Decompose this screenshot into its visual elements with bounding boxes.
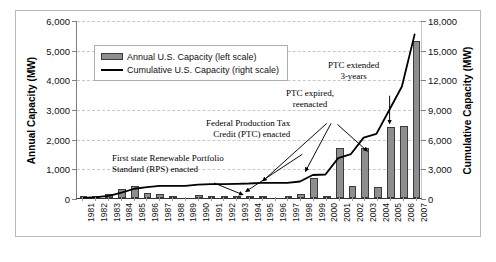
x-axis-tick xyxy=(326,197,327,201)
left-axis-title-label: Annual Capacity (MW) xyxy=(27,56,38,164)
right-axis-tick-label: 12,000 xyxy=(428,75,457,86)
right-axis-tick xyxy=(421,199,426,200)
right-axis-tick xyxy=(421,140,426,141)
annotation-ptc-extended-line1: PTC extended xyxy=(328,60,379,71)
annotation-ptc-enacted: Federal Production Tax Credit (PTC) enac… xyxy=(206,118,290,140)
right-axis-tick-label: 6,000 xyxy=(428,134,452,145)
annotation-ptc-expired-line1: PTC expired, xyxy=(286,88,334,99)
right-axis-title-label: Cumulative Capacity (MW) xyxy=(463,46,474,174)
x-axis-label-1993: 1993 xyxy=(240,203,250,222)
x-axis-tick xyxy=(275,197,276,201)
x-axis-label-2002: 2002 xyxy=(355,203,365,222)
x-axis-tick xyxy=(223,197,224,201)
legend-item-cumulative: Cumulative U.S. Capacity (right scale) xyxy=(101,63,279,76)
x-axis-tick xyxy=(364,197,365,201)
x-axis-tick xyxy=(249,197,250,201)
x-axis-tick xyxy=(352,197,353,201)
left-axis-tick-label: 2,000 xyxy=(46,134,70,145)
legend-label-annual: Annual U.S. Capacity (left scale) xyxy=(127,52,257,62)
x-axis-tick xyxy=(172,197,173,201)
annotation-ptc-enacted-line2: Credit (PTC) enacted xyxy=(206,129,290,140)
x-axis-label-1984: 1984 xyxy=(124,203,134,222)
x-axis-label-2003: 2003 xyxy=(368,203,378,222)
right-axis-tick-label: 18,000 xyxy=(428,16,457,27)
annotation-ptc-extended: PTC extended 3-years xyxy=(328,60,379,82)
chart-frame: Annual Capacity (MW) Cumulative Capacity… xyxy=(15,10,481,237)
x-axis-label-1995: 1995 xyxy=(265,203,275,222)
x-axis-label-2007: 2007 xyxy=(419,203,429,222)
x-axis-tick xyxy=(390,197,391,201)
x-axis-tick xyxy=(185,197,186,201)
x-axis-label-1990: 1990 xyxy=(201,203,211,222)
x-axis-tick xyxy=(211,197,212,201)
x-axis-label-1986: 1986 xyxy=(150,203,160,222)
x-axis-label-2006: 2006 xyxy=(406,203,416,222)
annotation-rps-line2: Standard (RPS) enacted xyxy=(112,164,224,175)
bar-swatch-icon xyxy=(101,53,123,60)
x-axis-tick xyxy=(121,197,122,201)
x-axis-tick xyxy=(146,197,147,201)
x-axis-label-2005: 2005 xyxy=(393,203,403,222)
x-axis-tick xyxy=(300,197,301,201)
x-axis-tick xyxy=(82,197,83,201)
annotation-ptc-enacted-line1: Federal Production Tax xyxy=(206,118,290,129)
x-axis-label-1997: 1997 xyxy=(291,203,301,222)
x-axis-tick xyxy=(262,197,263,201)
x-axis-tick-labels: 1981198219831984198519861987198819891990… xyxy=(76,201,422,247)
annotation-rps-line1: First state Renewable Portfolio xyxy=(112,153,224,164)
x-axis-tick xyxy=(313,197,314,201)
x-axis-tick xyxy=(287,197,288,201)
right-axis-tick-label: 3,000 xyxy=(428,164,452,175)
left-axis-tick-label: 6,000 xyxy=(46,16,70,27)
x-axis-label-1988: 1988 xyxy=(176,203,186,222)
right-axis-tick xyxy=(421,80,426,81)
x-axis-label-1981: 1981 xyxy=(86,203,96,222)
wind-capacity-chart-figure: Annual Capacity (MW) Cumulative Capacity… xyxy=(0,0,496,262)
x-axis-tick xyxy=(416,197,417,201)
left-axis-tick xyxy=(72,199,77,200)
annotation-ptc-extended-line2: 3-years xyxy=(328,71,379,82)
annotation-rps: First state Renewable Portfolio Standard… xyxy=(112,153,224,175)
x-axis-tick xyxy=(134,197,135,201)
left-axis-tick-label: 0 xyxy=(65,194,70,205)
right-axis-tick xyxy=(421,51,426,52)
x-axis-label-1996: 1996 xyxy=(278,203,288,222)
x-axis-label-1987: 1987 xyxy=(163,203,173,222)
x-axis-tick xyxy=(403,197,404,201)
x-axis-label-1992: 1992 xyxy=(227,203,237,222)
x-axis-tick xyxy=(95,197,96,201)
right-axis-tick xyxy=(421,110,426,111)
annotation-ptc-expired-line2: reenacted xyxy=(286,99,334,110)
line-swatch-icon xyxy=(101,69,123,71)
x-axis-label-1985: 1985 xyxy=(137,203,147,222)
x-axis-label-2000: 2000 xyxy=(329,203,339,222)
x-axis-tick xyxy=(159,197,160,201)
x-axis-tick xyxy=(377,197,378,201)
x-axis-label-2004: 2004 xyxy=(381,203,391,222)
x-axis-label-1994: 1994 xyxy=(253,203,263,222)
x-axis-label-1982: 1982 xyxy=(99,203,109,222)
legend-item-annual: Annual U.S. Capacity (left scale) xyxy=(101,50,279,63)
x-axis-tick xyxy=(339,197,340,201)
right-axis-tick xyxy=(421,169,426,170)
left-axis-tick-label: 3,000 xyxy=(46,105,70,116)
right-axis-title: Cumulative Capacity (MW) xyxy=(460,21,476,199)
x-axis-label-2001: 2001 xyxy=(342,203,352,222)
right-axis-tick xyxy=(421,21,426,22)
right-axis-tick-label: 15,000 xyxy=(428,45,457,56)
left-axis-title: Annual Capacity (MW) xyxy=(24,21,40,199)
legend-label-cumulative: Cumulative U.S. Capacity (right scale) xyxy=(127,65,279,75)
right-axis-tick-label: 9,000 xyxy=(428,105,452,116)
x-axis-label-1991: 1991 xyxy=(214,203,224,222)
left-axis-tick-label: 5,000 xyxy=(46,45,70,56)
x-axis-label-1998: 1998 xyxy=(304,203,314,222)
x-axis-label-1999: 1999 xyxy=(317,203,327,222)
chart-legend: Annual U.S. Capacity (left scale) Cumula… xyxy=(94,45,288,81)
x-axis-label-1983: 1983 xyxy=(112,203,122,222)
x-axis-tick xyxy=(236,197,237,201)
annotation-ptc-expired: PTC expired, reenacted xyxy=(286,88,334,110)
x-axis-tick xyxy=(198,197,199,201)
x-axis-tick xyxy=(108,197,109,201)
left-axis-tick-label: 4,000 xyxy=(46,75,70,86)
left-axis-tick-label: 1,000 xyxy=(46,164,70,175)
